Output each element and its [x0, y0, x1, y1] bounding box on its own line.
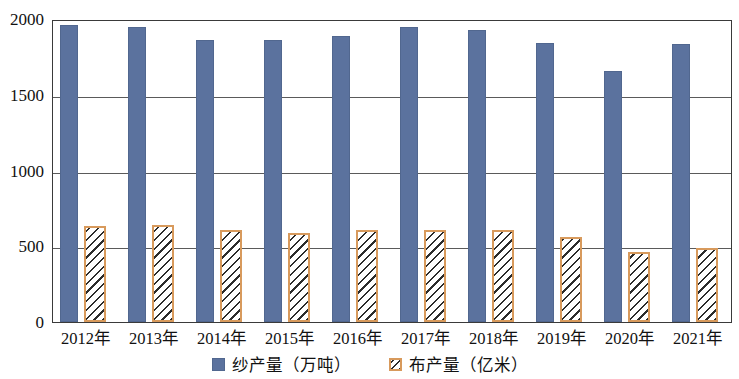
bar-cloth	[628, 252, 650, 322]
x-tick-label: 2020年	[596, 325, 664, 349]
x-tick-label: 2021年	[664, 325, 732, 349]
x-tick-label: 2012年	[52, 325, 120, 349]
bar-cloth	[288, 233, 310, 322]
bar-cloth	[220, 230, 242, 322]
bar-cloth	[424, 230, 446, 322]
bar-yarn	[536, 43, 554, 322]
bar-chart: 0500100015002000 2012年2013年2014年2015年201…	[0, 0, 739, 379]
x-tick-label: 2019年	[528, 325, 596, 349]
bar-yarn	[128, 27, 146, 322]
bar-yarn	[332, 36, 350, 322]
bar-cloth	[152, 225, 174, 322]
plot-area	[52, 20, 732, 323]
x-axis: 2012年2013年2014年2015年2016年2017年2018年2019年…	[52, 325, 732, 351]
bar-yarn	[264, 40, 282, 322]
bar-yarn	[672, 44, 690, 322]
bars-layer	[53, 21, 731, 322]
bar-yarn	[468, 30, 486, 322]
legend-item: 布产量（亿米）	[389, 352, 528, 376]
bar-group	[325, 21, 393, 322]
bar-group	[529, 21, 597, 322]
bar-yarn	[400, 27, 418, 322]
x-tick-label: 2016年	[324, 325, 392, 349]
x-tick-label: 2015年	[256, 325, 324, 349]
x-tick-label: 2013年	[120, 325, 188, 349]
bar-group	[121, 21, 189, 322]
y-tick-label: 1500	[10, 86, 44, 106]
bar-cloth	[84, 226, 106, 322]
bar-group	[665, 21, 733, 322]
legend-label: 纱产量（万吨）	[232, 352, 351, 376]
bar-group	[257, 21, 325, 322]
bar-group	[461, 21, 529, 322]
bar-yarn	[604, 71, 622, 322]
y-tick-label: 2000	[10, 10, 44, 30]
y-tick-label: 500	[19, 237, 45, 257]
y-tick-label: 0	[36, 313, 45, 333]
legend-item: 纱产量（万吨）	[212, 352, 351, 376]
x-tick-label: 2018年	[460, 325, 528, 349]
bar-group	[597, 21, 665, 322]
bar-group	[393, 21, 461, 322]
solid-blue-square-icon	[212, 358, 225, 371]
y-axis: 0500100015002000	[0, 0, 52, 343]
bar-yarn	[196, 40, 214, 322]
y-tick-label: 1000	[10, 162, 44, 182]
bar-group	[189, 21, 257, 322]
bar-cloth	[356, 230, 378, 322]
bar-group	[53, 21, 121, 322]
x-tick-label: 2017年	[392, 325, 460, 349]
bar-cloth	[560, 237, 582, 322]
bar-cloth	[492, 230, 514, 322]
hatched-orange-square-icon	[389, 358, 402, 371]
chart-legend: 纱产量（万吨）布产量（亿米）	[0, 352, 739, 376]
bar-yarn	[60, 25, 78, 322]
legend-label: 布产量（亿米）	[409, 352, 528, 376]
x-tick-label: 2014年	[188, 325, 256, 349]
bar-cloth	[696, 248, 718, 322]
